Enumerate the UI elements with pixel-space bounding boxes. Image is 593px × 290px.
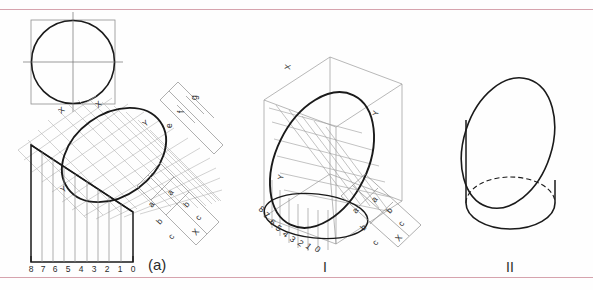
axis-marker-x: X (57, 105, 67, 116)
dimension-label-f: f (176, 110, 186, 113)
axis-marker-y: Y (371, 109, 381, 116)
axis-marker-x: X (283, 63, 293, 70)
scale-number: 0 (313, 244, 323, 255)
development-baseline-ticks (31, 256, 133, 262)
development-dimension-labels-upper: g f e (164, 95, 199, 128)
figure-label-one: I (323, 259, 327, 275)
dimension-label-g: g (189, 95, 199, 100)
scale-number: 7 (41, 264, 46, 274)
cross-marker-x: X (190, 226, 202, 237)
isometric-view: 8 7 6 5 4 3 2 1 0 X Y Y (249, 57, 421, 275)
dimension-label-a: a (369, 194, 380, 204)
scale-number: 1 (118, 264, 123, 274)
dimension-label-e: e (164, 123, 174, 128)
development-dimension-ladder-upper (160, 82, 223, 154)
cross-marker-x: X (393, 232, 405, 243)
pictorial-cut-ellipse (445, 66, 570, 221)
development-ellipse (44, 88, 184, 221)
dimension-label-c: c (193, 212, 204, 222)
scale-number: 5 (274, 223, 284, 234)
scale-number: 6 (53, 264, 58, 274)
development-generatrix-lines (42, 152, 121, 262)
development-grid-diagonal-a (18, 100, 221, 218)
scale-number: 1 (304, 241, 314, 252)
isometric-scale-numbers: 8 7 6 5 4 3 2 1 0 (257, 204, 323, 255)
scale-number: 5 (66, 264, 71, 274)
isometric-bounding-box (264, 57, 402, 244)
scale-number: 4 (79, 264, 84, 274)
pictorial-base-back-arc (466, 177, 555, 203)
pictorial-base-front-arc (466, 203, 555, 229)
development-grid-diagonal-b (18, 96, 222, 219)
dimension-label-c: c (370, 237, 381, 247)
development-view: 8 7 6 5 4 3 2 1 0 X X Y Y (18, 82, 223, 274)
scale-number: 0 (131, 264, 136, 274)
technical-drawing-canvas: 8 7 6 5 4 3 2 1 0 X X Y Y (0, 0, 593, 290)
scale-number: 2 (105, 264, 110, 274)
scale-number: 8 (29, 264, 34, 274)
dimension-label-c: c (396, 218, 407, 228)
circle-in-square-top-view (23, 12, 123, 112)
scale-number: 3 (92, 264, 97, 274)
drawing-sheet: 8 7 6 5 4 3 2 1 0 X X Y Y (0, 0, 593, 290)
dimension-label-c: c (166, 231, 177, 241)
dimension-label-b: b (154, 216, 165, 226)
dimension-label-a: a (350, 205, 361, 215)
figure-label-a: (a) (148, 256, 166, 273)
pictorial-view: II (445, 66, 570, 275)
development-scale-numbers: 8 7 6 5 4 3 2 1 0 (29, 264, 136, 274)
figure-label-two: II (506, 259, 514, 275)
